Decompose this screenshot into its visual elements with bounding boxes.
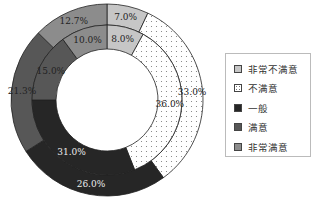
data-label: 15.0% (37, 66, 66, 76)
legend-swatch (234, 123, 242, 131)
data-label: 31.0% (57, 147, 86, 157)
legend-label: 不满意 (248, 81, 278, 95)
data-label: 8.0% (111, 34, 134, 44)
legend-item-very-dissatisfied: 非常不满意 (234, 59, 310, 79)
legend-item-dissatisfied: 不满意 (234, 79, 310, 99)
data-label: 12.7% (59, 16, 88, 26)
legend-label: 一般 (248, 101, 268, 115)
legend: 非常不满意 不满意 一般 满意 非常满意 (225, 53, 311, 157)
data-label: 7.0% (114, 12, 137, 22)
legend-swatch (234, 143, 242, 151)
data-label: 26.0% (77, 179, 106, 189)
legend-item-very-satisfied: 非常满意 (234, 137, 310, 157)
legend-swatch (234, 84, 242, 92)
legend-label: 非常不满意 (248, 62, 298, 76)
double-donut-chart: 7.0%33.0%26.0%21.3%12.7%8.0%36.0%31.0%15… (0, 0, 220, 201)
legend-swatch (234, 104, 242, 112)
data-label: 36.0% (156, 99, 185, 109)
data-label: 33.0% (178, 87, 207, 97)
legend-swatch (234, 65, 242, 73)
legend-label: 非常满意 (248, 140, 288, 154)
data-label: 10.0% (73, 35, 102, 45)
legend-item-satisfied: 满意 (234, 118, 310, 138)
legend-label: 满意 (248, 120, 268, 134)
legend-item-neutral: 一般 (234, 98, 310, 118)
data-label: 21.3% (8, 86, 37, 96)
